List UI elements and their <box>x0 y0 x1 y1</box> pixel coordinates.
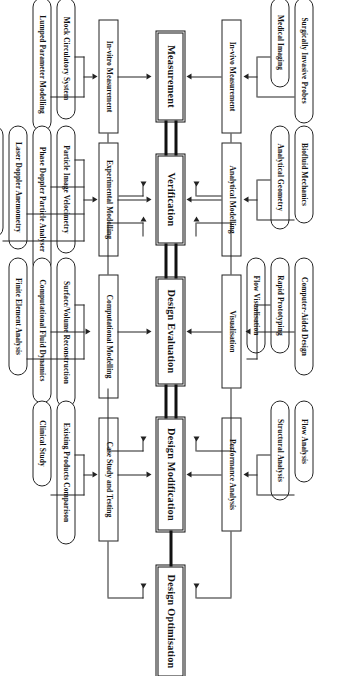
feedback-computational-to-verification-h2 <box>142 222 143 236</box>
feedback-performance-to-optimisation-v <box>196 597 231 598</box>
connector-modification-lower-drop <box>83 474 92 475</box>
connector-lumped-parameter-stem <box>50 96 84 97</box>
arrowhead-analytical-to-verification <box>186 196 191 202</box>
feedback-computational-to-verification-v <box>107 222 143 223</box>
feedback-visualisation-to-verification-h <box>230 222 231 274</box>
connector-analytical-to-verification <box>190 199 221 200</box>
arrowhead-invitro-to-verification <box>140 181 146 186</box>
arrowhead-performance-to-modification <box>186 471 191 477</box>
connector-pdpa-stem <box>50 186 84 187</box>
connector-verification-upper-drop <box>247 199 257 200</box>
arrowhead-measurement-upper-bus <box>243 73 248 79</box>
connector-computational-to-evaluation <box>117 331 146 332</box>
connector-surgically-invasive-probes-stem <box>257 96 294 97</box>
leaf-node-rapid-prototyping[interactable]: Rapid Prototyping <box>270 257 289 353</box>
spine-node-measurement[interactable]: Measurement <box>157 32 183 120</box>
feedback-visualisation-to-verification-v <box>196 222 231 223</box>
leaf-node-laser-doppler-anemometry[interactable]: Laser Doppler Anemometry <box>8 125 27 249</box>
arrowhead-invivo-to-measurement <box>186 73 191 79</box>
leaf-node-analytical-geometry[interactable]: Analytical Geometry <box>270 125 289 229</box>
connector-modification-upper-drop <box>247 474 257 475</box>
leaf-node-computer-aided-design[interactable]: Computer-Aided Design <box>294 257 313 375</box>
leaf-node-particle-image-velocimetry[interactable]: Particle Image Velocimetry <box>56 125 75 253</box>
leaf-node-finite-element-analysis[interactable]: Finite Element Analysis <box>8 257 27 375</box>
arrowhead-evaluation-to-modification-lower <box>140 436 146 441</box>
arrowhead-evaluation-to-modification <box>193 436 199 441</box>
arrowhead-computational-to-verification <box>140 216 146 221</box>
mid-node-in-vitro-measurement[interactable]: In-vitro Measurement <box>98 19 118 133</box>
connector-flow-visualisation-stem <box>246 358 257 359</box>
connector-fea-stem <box>26 358 84 359</box>
leaf-node-flow-analysis[interactable]: Flow Analysis <box>294 400 313 482</box>
feedback-evaluation-to-modification-v <box>196 450 231 451</box>
spine-node-verification[interactable]: Verification <box>157 155 183 243</box>
leaf-node-biofluid-mechanics[interactable]: Biofluid Mechanics <box>294 125 313 223</box>
arrowhead-measurement-lower-bus <box>92 73 97 79</box>
connector-measurement-lower-drop <box>83 76 92 77</box>
mid-node-computational-modelling[interactable]: Computational Modelling <box>98 274 118 398</box>
spine-node-design-evaluation[interactable]: Design Evaluation <box>157 278 183 384</box>
feedback-performance-to-optimisation-h <box>230 531 231 597</box>
connector-biofluid-mechanics-stem <box>257 219 294 220</box>
arrowhead-evaluation-lower-bus <box>85 328 90 334</box>
connector-invitro-to-measurement <box>117 76 146 77</box>
leaf-node-surgically-invasive-probes[interactable]: Surgically Invasive Probes <box>294 0 313 123</box>
connector-cad-stem <box>257 331 294 332</box>
connector-measurement-upper-drop <box>247 76 257 77</box>
mid-node-visualisation[interactable]: Visualisation <box>221 274 241 388</box>
connector-hfa-stem <box>2 240 84 241</box>
feedback-evaluation-to-modification-h <box>230 388 231 450</box>
connector-experimental-to-verification <box>117 199 146 200</box>
feedback-computational-to-verification-h <box>107 222 108 274</box>
leaf-node-mock-circulatory-system[interactable]: Mock Circulatory System <box>56 0 75 119</box>
leaf-node-structural-analysis[interactable]: Structural Analysis <box>270 400 289 500</box>
arrowhead-invitro-to-measurement <box>146 73 151 79</box>
leaf-node-phase-doppler-particle-analyser[interactable]: Phase Doppler Particle Analyser <box>32 125 51 273</box>
feedback-visualisation-to-verification-h2 <box>195 222 196 236</box>
connector-medical-imaging-stem <box>257 56 270 57</box>
leaf-node-clinical-study[interactable]: Clinical Study <box>32 400 51 486</box>
connector-existing-products-stem <box>74 454 84 455</box>
connector-evaluation-lower-bus <box>83 304 84 359</box>
leaf-node-computational-fluid-dynamics[interactable]: Computational Fluid Dynamics <box>32 257 51 403</box>
connector-svr-stem <box>74 304 84 305</box>
arrowhead-case-study-to-optimisation <box>140 583 146 588</box>
connector-invivo-to-measurement <box>190 76 221 77</box>
connector-flow-analysis-stem <box>257 494 294 495</box>
connector-structural-analysis-stem <box>257 454 270 455</box>
leaf-node-medical-imaging[interactable]: Medical Imaging <box>270 0 289 87</box>
arrowhead-computational-to-evaluation <box>146 328 151 334</box>
arrowhead-visualisation-to-verification <box>193 216 199 221</box>
feedback-evaluation-to-modification-lower-h <box>107 388 108 450</box>
feedback-case-study-to-optimisation-h <box>107 541 108 597</box>
mid-node-in-vivo-measurement[interactable]: In-vivo Measurement <box>221 19 241 133</box>
connector-lda-stem <box>26 213 84 214</box>
arrowhead-experimental-to-verification <box>146 196 151 202</box>
connector-mock-circulatory-stem <box>74 56 84 57</box>
connector-performance-to-modification <box>190 474 221 475</box>
connector-evaluation-upper-bus <box>256 304 257 359</box>
arrowhead-verification-lower-bus <box>92 196 97 202</box>
arrowhead-modification-lower-bus <box>92 471 97 477</box>
arrowhead-visualisation-to-evaluation <box>186 328 191 334</box>
connector-verification-lower-drop <box>83 199 92 200</box>
arrowhead-case-study-to-modification <box>146 471 151 477</box>
spine-node-design-modification[interactable]: Design Modification <box>157 418 183 530</box>
feedback-evaluation-to-modification-lower-v <box>107 450 143 451</box>
arrowhead-evaluation-upper-bus <box>245 328 250 334</box>
arrowhead-modification-upper-bus <box>243 471 248 477</box>
arrowhead-invivo-to-verification <box>193 181 199 186</box>
connector-rapid-prototyping-stem <box>257 304 270 305</box>
spine-node-design-optimisation[interactable]: Design Optimisation <box>157 566 183 676</box>
connector-visualisation-to-evaluation <box>190 331 221 332</box>
arrowhead-verification-upper-bus <box>243 196 248 202</box>
leaf-node-lumped-parameter-modelling[interactable]: Lumped Parameter Modelling <box>32 0 51 131</box>
connector-case-study-to-modification <box>117 474 146 475</box>
leaf-node-hot-film-anemometry[interactable]: Hot-Film Anemometry <box>0 125 3 237</box>
feedback-case-study-to-optimisation-v <box>107 597 143 598</box>
connector-piv-stem <box>74 159 84 160</box>
connector-clinical-study-stem <box>50 494 84 495</box>
connector-cfd-stem <box>50 331 84 332</box>
leaf-node-existing-products-comparison[interactable]: Existing Products Comparison <box>56 400 75 544</box>
